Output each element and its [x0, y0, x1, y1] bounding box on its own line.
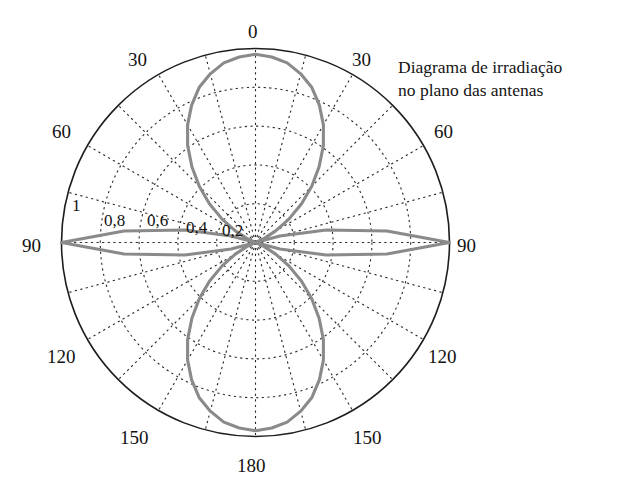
radial-label-1: 1	[72, 197, 81, 214]
polar-radiation-pattern-figure: 0306090120150180150120906030 10,80,60,40…	[0, 0, 619, 499]
angle-label-60-left: 60	[52, 122, 71, 141]
angle-label-0: 0	[248, 22, 258, 41]
angle-label-30-left: 30	[128, 50, 147, 69]
angle-label-150-right: 150	[353, 428, 382, 447]
angle-label-120-right: 120	[428, 347, 457, 366]
radial-label-0-6: 0,6	[147, 212, 168, 229]
angle-label-30-right: 30	[352, 50, 371, 69]
caption-line-1: Diagrama de irradiação	[398, 56, 613, 79]
angle-label-90-left: 90	[22, 236, 41, 255]
radial-label-0-8: 0,8	[104, 212, 125, 229]
radial-label-0-2: 0,2	[222, 222, 243, 239]
radial-label-0-4: 0,4	[186, 219, 207, 236]
caption-line-2: no plano das antenas	[398, 79, 613, 102]
angle-label-90-right: 90	[457, 236, 476, 255]
figure-caption: Diagrama de irradiação no plano das ante…	[398, 56, 613, 102]
angle-label-180: 180	[237, 456, 266, 475]
angle-label-150-left: 150	[120, 428, 149, 447]
angle-label-120-left: 120	[47, 347, 76, 366]
angle-label-60-right: 60	[434, 122, 453, 141]
